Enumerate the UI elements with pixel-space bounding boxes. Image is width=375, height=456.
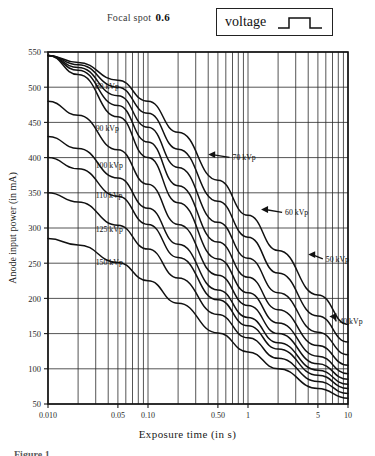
x-tick-label: 0.010 (39, 411, 57, 419)
series-label-40-kvp: 40 kVp (339, 317, 362, 326)
figure-caption: Figure 1 (14, 449, 50, 456)
focal-spot-annotation: Focal spot0.6 (107, 11, 170, 23)
y-tick-label: 100 (28, 364, 41, 374)
voltage-waveform-box: voltage (216, 8, 333, 36)
series-label-125-kvp: 125 kVp (96, 225, 123, 234)
square-pulse-waveform-icon (277, 15, 323, 31)
series-label-80-kvp: 80 kVp (96, 82, 119, 91)
x-tick-label: 1 (246, 411, 250, 419)
y-tick-label: 150 (28, 329, 41, 339)
series-label-60-kvp: 60 kVp (285, 208, 308, 217)
label-arrowhead (261, 206, 268, 213)
y-tick-label: 250 (28, 259, 41, 269)
y-axis-label: Anode input power (in mA) (7, 172, 19, 284)
series-label-50-kvp: 50 kVp (326, 255, 349, 264)
label-arrowhead (308, 251, 315, 258)
curve-40-kvp (48, 56, 348, 325)
x-tick-label: 0.05 (111, 411, 125, 419)
series-label-150-kvp: 150 kVp (96, 258, 123, 267)
y-tick-label: 550 (28, 47, 41, 57)
curve-90-kvp (48, 101, 348, 379)
series-label-110-kvp: 110 kVp (96, 191, 123, 200)
focal-spot-value: 0.6 (155, 11, 170, 23)
y-tick-label: 400 (28, 153, 41, 163)
curve-50-kvp (48, 56, 348, 343)
x-tick-label: 0.10 (141, 411, 155, 419)
y-tick-label: 500 (28, 83, 41, 93)
chart-header: Focal spot0.6 voltage (0, 0, 375, 44)
voltage-label: voltage (225, 14, 266, 30)
y-tick-label: 350 (28, 188, 41, 198)
series-label-100-kvp: 100 kVp (96, 161, 123, 170)
x-tick-label: 10 (344, 411, 352, 419)
focal-spot-label: Focal spot (107, 12, 151, 23)
y-tick-label: 300 (28, 223, 41, 233)
y-tick-label: 200 (28, 294, 41, 304)
tube-rating-chart: 501001502002503003504004505005500.0100.0… (0, 44, 375, 419)
series-label-90-kvp: 90 kVp (96, 124, 119, 133)
label-arrowhead (208, 151, 215, 158)
y-tick-label: 450 (28, 118, 41, 128)
series-label-70-kvp: 70 kVp (233, 153, 256, 162)
curve-110-kvp (48, 158, 348, 389)
curve-60-kvp (48, 56, 348, 355)
y-tick-label: 50 (33, 399, 42, 409)
x-tick-label: 5 (316, 411, 320, 419)
x-axis-label: Exposure time (in s) (0, 428, 375, 440)
x-tick-label: 0.50 (211, 411, 225, 419)
chart-canvas: 501001502002503003504004505005500.0100.0… (0, 44, 375, 419)
